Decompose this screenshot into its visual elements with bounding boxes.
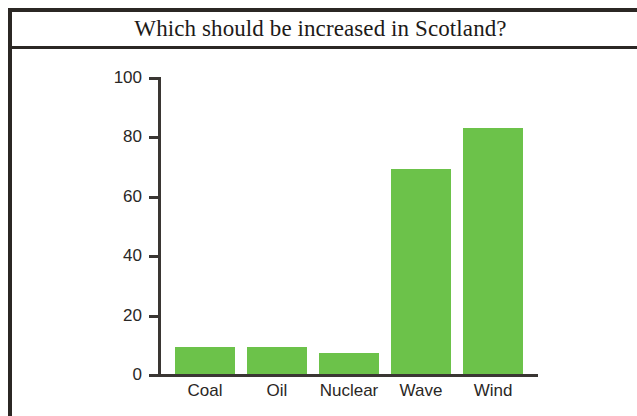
bar: [175, 347, 235, 374]
chart-title-bar: Which should be increased in Scotland?: [12, 12, 629, 46]
bar: [463, 128, 523, 375]
bar: [391, 169, 451, 374]
bar-series: [0, 49, 629, 416]
chart-title: Which should be increased in Scotland?: [134, 16, 506, 42]
bar: [247, 347, 307, 374]
x-axis-category-label: Wind: [443, 381, 543, 400]
bar: [319, 353, 379, 374]
plot-area: 020406080100 CoalOilNuclearWaveWind: [0, 49, 629, 416]
